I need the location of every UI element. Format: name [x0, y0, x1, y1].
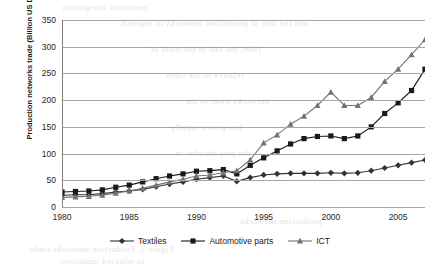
x-tick-label: 2000 — [311, 212, 351, 222]
data-point-marker — [86, 188, 91, 193]
data-point-marker — [301, 136, 306, 141]
data-point-marker — [119, 238, 125, 244]
x-tick-label: 2005 — [378, 212, 418, 222]
gridline — [62, 100, 425, 101]
y-tick-label: 250 — [26, 68, 56, 78]
data-point-marker — [342, 136, 347, 141]
y-tick-label: 50 — [26, 175, 56, 185]
scan-bleed-text: in selected industries — [60, 256, 144, 266]
data-point-marker — [422, 37, 425, 43]
gridline — [62, 20, 425, 21]
data-point-marker — [73, 189, 78, 194]
x-tick-label: 1995 — [244, 212, 284, 222]
gridline — [62, 207, 425, 208]
data-point-marker — [409, 88, 414, 93]
plot-area — [62, 20, 425, 207]
data-point-marker — [301, 170, 307, 176]
series-automotive-parts — [62, 67, 425, 195]
data-point-marker — [368, 168, 374, 174]
series-line — [62, 69, 425, 192]
chart-legend: TextilesAutomotive partsICT — [0, 236, 439, 246]
data-point-marker — [127, 182, 132, 187]
gridline — [62, 154, 425, 155]
data-point-marker — [355, 133, 360, 138]
y-tick-label: 200 — [26, 95, 56, 105]
x-tick-label: 1980 — [42, 212, 82, 222]
data-point-marker — [328, 170, 334, 176]
legend-label: Textiles — [137, 236, 166, 246]
x-tick-label: 1990 — [176, 212, 216, 222]
gridline — [62, 127, 425, 128]
diamond-marker-icon — [109, 236, 135, 246]
y-tick-label: 100 — [26, 149, 56, 159]
data-point-marker — [191, 238, 196, 243]
series-line — [62, 40, 425, 198]
gridline — [62, 47, 425, 48]
data-point-marker — [315, 134, 320, 139]
data-point-marker — [261, 140, 267, 146]
data-point-marker — [355, 170, 361, 176]
data-point-marker — [100, 187, 105, 192]
data-point-marker — [341, 170, 347, 176]
data-point-marker — [167, 173, 172, 178]
data-point-marker — [314, 170, 320, 176]
data-point-marker — [261, 172, 267, 178]
data-point-marker — [382, 111, 387, 116]
data-point-marker — [234, 178, 240, 184]
series-layer — [62, 20, 425, 207]
data-point-marker — [248, 163, 253, 168]
data-point-marker — [328, 133, 333, 138]
data-point-marker — [422, 67, 425, 72]
scan-bleed-text: economic integration — [62, 2, 146, 12]
y-tick-label: 300 — [26, 42, 56, 52]
data-point-marker — [382, 165, 388, 171]
x-tick-label: 1985 — [109, 212, 149, 222]
data-point-marker — [395, 162, 401, 168]
legend-item-textiles[interactable]: Textiles — [109, 236, 166, 246]
data-point-marker — [287, 170, 293, 176]
data-point-marker — [261, 155, 266, 160]
triangle-marker-icon — [287, 236, 313, 246]
data-point-marker — [113, 185, 118, 190]
legend-item-ict[interactable]: ICT — [287, 236, 330, 246]
legend-item-automotive-parts[interactable]: Automotive parts — [180, 236, 273, 246]
y-tick-label: 350 — [26, 15, 56, 25]
series-ict — [62, 37, 425, 200]
gridline — [62, 73, 425, 74]
data-point-marker — [288, 141, 293, 146]
square-marker-icon — [180, 236, 206, 246]
data-point-marker — [408, 160, 414, 166]
data-point-marker — [422, 157, 425, 163]
data-point-marker — [274, 171, 280, 177]
legend-label: Automotive parts — [208, 236, 273, 246]
y-tick-label: 0 — [26, 202, 56, 212]
data-point-marker — [180, 171, 185, 176]
y-tick-label: 150 — [26, 122, 56, 132]
legend-label: ICT — [315, 236, 330, 246]
data-point-marker — [328, 89, 334, 95]
y-axis-line — [62, 20, 63, 207]
gridline — [62, 180, 425, 181]
